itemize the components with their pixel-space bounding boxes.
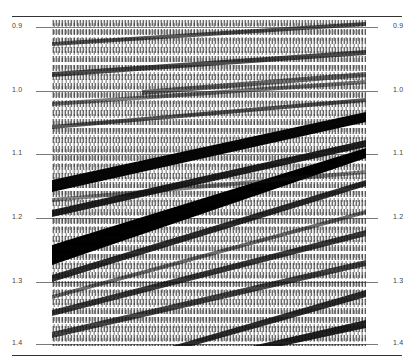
time-label-left-1-3: 1.3 (12, 277, 22, 284)
time-label-right-1-3: 1.3 (393, 277, 403, 284)
time-label-left-1-2: 1.2 (12, 213, 22, 220)
time-label-right-1-2: 1.2 (393, 213, 403, 220)
time-label-right-1-1: 1.1 (393, 149, 403, 156)
truncated-caption (12, 359, 392, 363)
bottom-rule (12, 355, 402, 356)
time-label-right-0-9: 0.9 (393, 22, 403, 29)
time-label-left-0-9: 0.9 (12, 22, 22, 29)
time-label-left-1-4: 1.4 (12, 339, 22, 346)
time-label-left-1-1: 1.1 (12, 149, 22, 156)
time-label-right-1-4: 1.4 (393, 339, 403, 346)
top-rule (12, 16, 402, 17)
seismic-figure: 0.9 1.0 1.1 1.2 1.3 1.4 0.9 1.0 1.1 1.2 … (0, 0, 416, 363)
time-label-right-1-0: 1.0 (393, 86, 403, 93)
time-label-left-1-0: 1.0 (12, 86, 22, 93)
seismic-traces (52, 20, 366, 346)
